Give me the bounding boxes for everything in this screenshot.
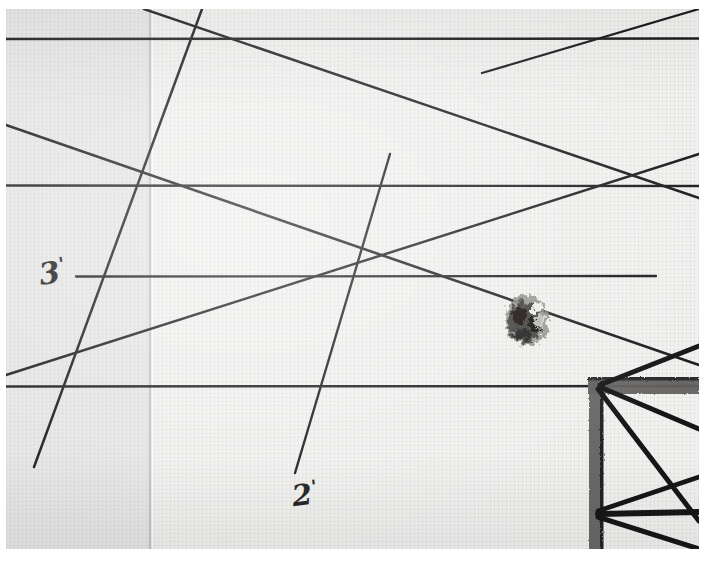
handwritten-dimension-2: 2' xyxy=(290,476,320,514)
handwritten-dimension-3: 3' xyxy=(36,253,68,292)
drawing-lines xyxy=(6,9,699,549)
brace-members xyxy=(598,346,699,549)
beam-vertical-edge xyxy=(600,381,604,549)
diagonal-descending-long xyxy=(6,125,699,365)
beam-horizontal-edge xyxy=(588,377,699,381)
diagonal-steep-center xyxy=(295,154,390,473)
diagonal-ascending-long xyxy=(6,154,699,375)
brace-bottom-up xyxy=(598,477,699,511)
diagonal-steep-left xyxy=(34,9,202,467)
brace-bottom-down xyxy=(598,517,699,549)
ink-blot xyxy=(505,295,549,345)
paper-sheet: 3' 2' xyxy=(6,9,699,549)
horizontal-middle-line xyxy=(76,276,656,277)
scanned-drawing-image: 3' 2' xyxy=(0,0,705,561)
diagonal-top-right-short xyxy=(482,9,699,73)
brace-bottom-horizontal xyxy=(598,512,699,514)
